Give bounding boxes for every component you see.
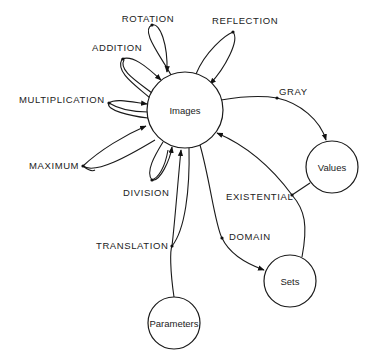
maximum-dot	[81, 164, 84, 167]
domain-label: DOMAIN	[229, 231, 271, 242]
node-parameters[interactable]: Parameters	[148, 297, 200, 349]
images-label: Images	[169, 105, 200, 116]
edge-gray[interactable]: GRAY	[221, 86, 326, 140]
rotation-label: ROTATION	[122, 13, 174, 24]
addition-label: ADDITION	[92, 42, 142, 53]
addition-dot	[121, 57, 124, 60]
division-dot	[150, 178, 153, 181]
reflection-label: REFLECTION	[212, 15, 278, 26]
edge-multiplication[interactable]: MULTIPLICATION	[19, 94, 148, 118]
parameters-label: Parameters	[149, 318, 198, 329]
edge-division[interactable]: DIVISION	[123, 142, 172, 198]
node-sets[interactable]: Sets	[264, 255, 316, 307]
edge-translation[interactable]: TRANSLATION	[96, 148, 189, 297]
category-diagram: ROTATION REFLECTION ADDITION MULTIPLICAT…	[0, 0, 373, 364]
edge-addition[interactable]: ADDITION	[92, 42, 161, 98]
gray-label: GRAY	[279, 86, 308, 97]
division-label: DIVISION	[123, 187, 170, 198]
translation-label: TRANSLATION	[96, 240, 168, 251]
edge-reflection[interactable]: REFLECTION	[196, 15, 278, 84]
values-label: Values	[318, 162, 347, 173]
existential-label: EXISTENTIAL	[226, 191, 293, 202]
multiplication-label: MULTIPLICATION	[19, 94, 105, 105]
edge-maximum[interactable]: MAXIMUM	[29, 126, 155, 171]
edge-domain[interactable]: DOMAIN	[200, 145, 271, 270]
sets-label: Sets	[280, 276, 299, 287]
reflection-dot	[231, 30, 234, 33]
node-values[interactable]: Values	[306, 141, 358, 193]
maximum-label: MAXIMUM	[29, 160, 79, 171]
domain-dot	[220, 236, 223, 239]
translation-dot	[170, 244, 173, 247]
multiplication-dot	[107, 101, 110, 104]
node-images[interactable]: Images	[147, 72, 223, 148]
